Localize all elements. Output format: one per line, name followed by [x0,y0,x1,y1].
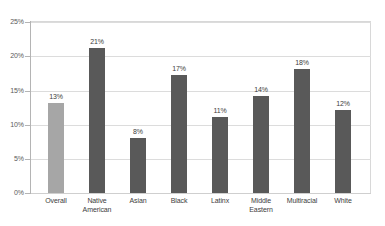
x-label-white: White [317,197,369,206]
bar-value-black: 17% [159,65,199,73]
bar-value-overall: 13% [36,93,76,101]
bar-value-latinx: 11% [200,107,240,115]
bar-chart: 25% 20% 15% 10% 5% 0% [0,0,385,226]
bar-white[interactable] [335,110,351,193]
bar-native-american[interactable] [89,48,105,193]
bar-black[interactable] [171,75,187,193]
bar-value-asian: 8% [118,128,158,136]
bar-overall[interactable] [48,103,64,193]
bar-asian[interactable] [130,138,146,193]
bar-latinx[interactable] [212,117,228,193]
bar-value-white: 12% [323,100,363,108]
bar-multiracial[interactable] [294,69,310,193]
bar-middle-eastern[interactable] [253,96,269,193]
bars-layer: 13% 21% 8% 17% 11% 14% 18% 12% [0,0,385,226]
bar-value-multiracial: 18% [282,59,322,67]
bar-value-native-american: 21% [77,38,117,46]
bar-value-middle-eastern: 14% [241,86,281,94]
